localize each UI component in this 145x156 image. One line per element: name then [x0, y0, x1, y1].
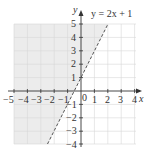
svg-text:−3: −3 — [31, 94, 42, 105]
svg-text:−4: −4 — [18, 94, 29, 105]
y-axis-arrow — [79, 10, 84, 16]
svg-text:−2: −2 — [44, 94, 55, 105]
origin-label: 0 — [82, 92, 87, 103]
svg-text:1: 1 — [71, 72, 76, 83]
svg-text:4: 4 — [71, 32, 76, 43]
svg-text:−5: −5 — [3, 94, 14, 105]
equation-label: y = 2x + 1 — [91, 8, 132, 19]
x-axis-label: x — [138, 93, 144, 104]
svg-text:−1: −1 — [66, 99, 77, 110]
graph: y = 2x + 1 y x 0 −5 −4 −3 −2 −1 1 2 3 4 … — [0, 0, 145, 156]
svg-text:4: 4 — [132, 94, 137, 105]
y-axis-label: y — [72, 4, 78, 15]
svg-text:3: 3 — [118, 94, 123, 105]
svg-text:1: 1 — [92, 94, 97, 105]
svg-text:3: 3 — [71, 45, 76, 56]
svg-text:5: 5 — [71, 18, 76, 29]
svg-text:2: 2 — [71, 58, 76, 69]
shaded-region — [14, 24, 108, 144]
svg-text:2: 2 — [105, 94, 110, 105]
svg-text:−4: −4 — [66, 139, 77, 150]
svg-text:−2: −2 — [66, 112, 77, 123]
svg-text:−3: −3 — [66, 125, 77, 136]
